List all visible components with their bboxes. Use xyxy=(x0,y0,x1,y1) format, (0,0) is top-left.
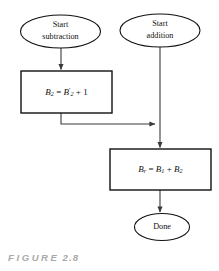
node-start-subtraction: Start subtraction xyxy=(21,15,101,48)
node-start-addition: Start addition xyxy=(120,14,200,47)
connector-process-to-junction xyxy=(61,113,155,124)
node-process-twos-complement: B2 = B′2 + 1 xyxy=(21,71,112,113)
flowchart-diagram: Start subtraction Start addition B2 = B′… xyxy=(0,0,219,247)
figure-container: Start subtraction Start addition B2 = B′… xyxy=(0,0,219,271)
figure-caption-number: 2.8 xyxy=(63,252,80,263)
figure-caption-word: FIGURE xyxy=(8,252,60,263)
start-subtraction-label-line1: Start xyxy=(53,20,69,29)
start-addition-label-line2: addition xyxy=(147,31,174,40)
figure-caption: FIGURE2.8 xyxy=(8,252,79,263)
start-addition-label-line1: Start xyxy=(152,19,168,28)
start-subtraction-label-line2: subtraction xyxy=(42,32,78,41)
done-label: Done xyxy=(153,222,171,231)
node-process-add: Br = B1 + B2 xyxy=(110,149,211,190)
node-done: Done xyxy=(135,214,190,241)
